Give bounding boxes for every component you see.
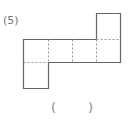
cube-net-diagram: [0, 0, 133, 122]
answer-paren-close: ): [88, 100, 93, 115]
net-outline: [24, 14, 121, 89]
fold-lines: [24, 40, 121, 63]
answer-paren-open: (: [51, 100, 56, 115]
